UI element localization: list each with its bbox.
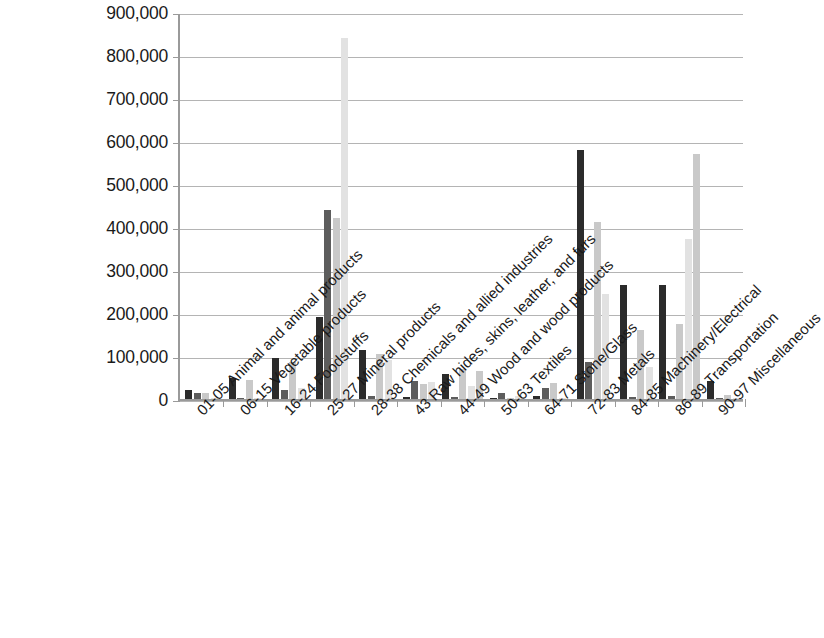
bar <box>577 150 584 399</box>
y-tick-mark <box>173 186 180 187</box>
y-tick-mark <box>173 14 180 15</box>
bar <box>281 390 288 399</box>
y-tick-mark <box>173 272 180 273</box>
x-axis-labels: 01-05 Animal and animal products06-15 Ve… <box>0 401 755 638</box>
y-axis-tick-label: 600,000 <box>106 134 168 152</box>
bar <box>451 397 458 399</box>
y-axis-tick-label: 200,000 <box>106 306 168 324</box>
y-tick-mark <box>173 143 180 144</box>
bar-group <box>185 14 218 399</box>
bar <box>668 396 675 399</box>
bar <box>403 397 410 399</box>
y-axis-labels: 900,000800,000700,000600,000500,000400,0… <box>0 14 168 401</box>
y-tick-mark <box>173 229 180 230</box>
bar <box>533 396 540 399</box>
y-axis-tick-label: 300,000 <box>106 263 168 281</box>
y-tick-mark <box>173 315 180 316</box>
y-axis-tick-label: 100,000 <box>106 349 168 367</box>
y-axis-tick-label: 400,000 <box>106 220 168 238</box>
y-tick-mark <box>173 57 180 58</box>
y-axis-tick-label: 800,000 <box>106 48 168 66</box>
bar <box>490 398 497 399</box>
y-axis-tick-label: 700,000 <box>106 91 168 109</box>
y-tick-mark <box>173 358 180 359</box>
y-axis-tick-label: 500,000 <box>106 177 168 195</box>
bar <box>185 390 192 399</box>
y-axis-tick-label: 900,000 <box>106 5 168 23</box>
bar <box>685 239 692 399</box>
y-tick-mark <box>173 100 180 101</box>
